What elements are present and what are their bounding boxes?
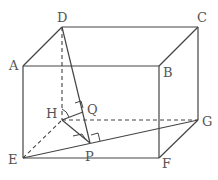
- right-angle-mark-P-left: [73, 134, 86, 140]
- segment-EG: [23, 120, 198, 158]
- label-G: G: [202, 114, 212, 129]
- segment-DP: [62, 27, 90, 143]
- label-E: E: [8, 152, 18, 167]
- segment-HQ: [62, 112, 83, 120]
- label-D: D: [57, 10, 67, 25]
- label-H: H: [46, 106, 57, 121]
- right-angle-mark-P-right: [91, 133, 100, 141]
- label-B: B: [163, 65, 173, 80]
- label-P: P: [85, 149, 94, 164]
- edge-BC: [159, 27, 198, 66]
- edge-AD: [23, 27, 62, 66]
- edge-FG: [159, 120, 198, 158]
- label-F: F: [162, 156, 171, 171]
- label-Q: Q: [87, 102, 98, 117]
- edge-EH: [23, 120, 62, 158]
- angle-mark-H: [62, 109, 69, 117]
- cuboid-diagram: D C A B H Q G E P F: [0, 0, 218, 180]
- label-C: C: [197, 10, 207, 25]
- label-A: A: [8, 58, 19, 73]
